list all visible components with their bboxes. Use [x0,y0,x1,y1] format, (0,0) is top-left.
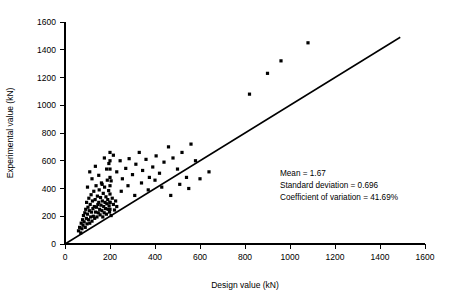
data-point [115,205,118,208]
data-point [128,157,131,160]
y-tick-label-800: 800 [42,128,56,138]
data-point [99,196,102,199]
data-point [97,201,100,204]
equality-reference-line [65,37,400,244]
data-point [248,93,251,96]
x-tick-label-0: 0 [63,252,68,262]
data-point [105,213,108,216]
annotation-coefficient-of-variation: Coefficient of variation = 41.69% [280,193,398,202]
data-point [115,170,118,173]
data-point [134,163,137,166]
data-point [119,159,122,162]
data-point [110,179,113,182]
data-point [90,210,93,213]
data-point [86,213,89,216]
x-tick-label-1200: 1200 [326,252,345,262]
data-point [105,167,108,170]
data-point [153,179,156,182]
data-point [87,197,90,200]
data-point [144,158,147,161]
data-points [77,41,310,234]
data-point [88,170,91,173]
data-point [86,186,89,189]
data-point [108,167,111,170]
y-axis-title: Experimental value (kN) [5,87,15,178]
statistics-annotation: Mean = 1.67 Standard deviation = 0.696 C… [280,169,398,202]
y-tick-label-1600: 1600 [37,17,56,27]
scatter-chart: 02004006008001000120014001600 0200400600… [0,0,460,298]
data-point [90,220,93,223]
data-point [106,179,109,182]
data-point [151,165,154,168]
data-point [108,151,111,154]
data-point [92,190,95,193]
data-point [89,203,92,206]
plot-area: 02004006008001000120014001600 0200400600… [0,0,460,298]
x-axis-tick-labels: 02004006008001000120014001600 [63,252,435,262]
data-point [108,184,111,187]
y-tick-label-0: 0 [51,239,56,249]
x-tick-label-400: 400 [148,252,162,262]
data-point [98,188,101,191]
y-tick-label-200: 200 [42,211,56,221]
data-point [108,176,111,179]
data-point [104,195,107,198]
data-point [110,214,113,217]
x-tick-label-800: 800 [238,252,252,262]
x-tick-label-1000: 1000 [281,252,300,262]
data-point [108,208,111,211]
x-axis-ticks [65,244,425,249]
data-point [108,201,111,204]
data-point [101,183,104,186]
data-point [114,199,117,202]
data-point [121,177,124,180]
y-axis-tick-labels: 02004006008001000120014001600 [37,17,56,249]
x-tick-label-1400: 1400 [371,252,390,262]
reference-line-segment [65,37,400,244]
data-point [138,151,141,154]
data-point [178,183,181,186]
data-point [108,192,111,195]
data-point [86,206,89,209]
data-point [171,156,174,159]
data-point [189,143,192,146]
data-point [84,226,87,229]
x-tick-label-1600: 1600 [416,252,435,262]
data-point [141,169,144,172]
data-point [187,187,190,190]
data-point [194,159,197,162]
y-tick-label-1400: 1400 [37,45,56,55]
data-point [111,197,114,200]
data-point [185,176,188,179]
data-point [140,181,143,184]
data-point [87,218,90,221]
data-point [266,72,269,75]
data-point [97,174,100,177]
data-point [83,220,86,223]
data-point [147,188,150,191]
data-point [112,203,115,206]
data-point [148,176,151,179]
data-point [85,201,88,204]
data-point [90,177,93,180]
data-point [82,214,85,217]
data-point [113,208,116,211]
data-point [180,151,183,154]
data-point [306,41,309,44]
data-point [101,215,104,218]
data-point [107,162,110,165]
data-point [94,198,97,201]
data-point [108,210,111,213]
data-point [107,189,110,192]
x-tick-label-600: 600 [193,252,207,262]
data-point [102,192,105,195]
y-tick-label-400: 400 [42,184,56,194]
data-point [126,184,129,187]
x-axis-title: Design value (kN) [211,280,279,290]
data-point [94,184,97,187]
data-point [133,194,136,197]
data-point [160,186,163,189]
annotation-mean: Mean = 1.67 [280,169,326,178]
data-point [158,172,161,175]
y-tick-label-1000: 1000 [37,100,56,110]
